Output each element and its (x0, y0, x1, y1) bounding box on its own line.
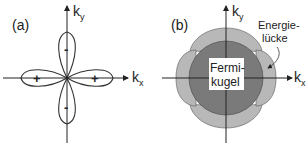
ky-label-b: ky (232, 3, 244, 22)
panel-a-label: (a) (12, 17, 29, 33)
sign-top: - (64, 42, 68, 57)
kx-label-b: kx (294, 69, 306, 88)
diagram: (a) ky kx + + - - (b) ky kx (0, 0, 307, 147)
gap-annotation-line2: lücke (262, 32, 288, 44)
sign-right: + (91, 71, 99, 86)
kx-label: kx (132, 69, 144, 88)
gap-annotation-line1: Energie- (258, 19, 300, 31)
panel-a-dwave-gap: (a) ky kx + + - - (3, 3, 144, 143)
fermi-label-line1: Fermi- (210, 61, 245, 75)
sign-bottom: - (64, 100, 68, 115)
fermi-label-line2: kugel (211, 75, 240, 89)
panel-b-label: (b) (171, 17, 188, 33)
sign-left: + (33, 71, 41, 86)
ky-label: ky (73, 3, 85, 22)
panel-b-fermi-sphere: (b) ky kx Fermi- kugel Energie- lücke (162, 3, 306, 143)
